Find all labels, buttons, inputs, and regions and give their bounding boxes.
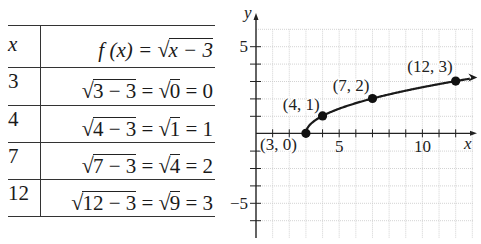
curve-arrow-icon [468,73,477,81]
point-label: (4, 1) [283,95,320,114]
y-axis-arrow-icon [254,13,259,20]
y-tick-label: −5 [230,194,248,213]
point-label: (3, 0) [260,135,297,154]
data-point [368,94,377,103]
y-tick-label: 5 [240,37,249,56]
labels: yx5105−5(3, 0)(4, 1)(7, 2)(12, 3) [230,3,472,213]
function-curve [306,79,470,134]
data-point [451,77,460,86]
x-tick-label: 5 [335,137,344,156]
x-axis-label: x [463,134,472,153]
y-axis-label: y [242,3,252,22]
function-graph: yx5105−5(3, 0)(4, 1)(7, 2)(12, 3) [0,0,481,244]
point-label: (7, 2) [333,76,370,95]
point-label: (12, 3) [407,57,452,76]
data-point [301,129,310,138]
x-tick-label: 10 [414,137,431,156]
